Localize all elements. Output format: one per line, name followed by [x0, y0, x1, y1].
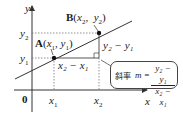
- y-axis-label: y: [25, 3, 30, 14]
- run-label: x₂ − x₁: [58, 60, 88, 71]
- x-axis-label: x: [145, 96, 150, 107]
- tick-x2: x2: [94, 95, 102, 111]
- rise-label: y₂ − y₁: [103, 40, 133, 51]
- slope-denominator: x₂ − x₁: [151, 86, 175, 108]
- point-a-label: A(x1, y1): [35, 38, 73, 54]
- slope-formula-box: 斜率 m = y₂ − y₁ x₂ − x₁: [110, 61, 178, 89]
- point-a: [52, 56, 56, 60]
- slope-caption: 斜率: [115, 70, 131, 81]
- point-b-label: B(x2, y2): [66, 12, 106, 28]
- point-b: [97, 31, 101, 35]
- tick-x1: x1: [49, 95, 57, 111]
- slope-numerator: y₂ − y₁: [151, 63, 175, 86]
- right-angle-marker: [94, 53, 99, 58]
- origin-label: 0: [22, 94, 28, 105]
- slope-variable: m =: [135, 70, 150, 80]
- slope-fraction: y₂ − y₁ x₂ − x₁: [151, 63, 175, 108]
- tick-y2: y2: [20, 28, 28, 44]
- tick-y1: y1: [20, 53, 28, 69]
